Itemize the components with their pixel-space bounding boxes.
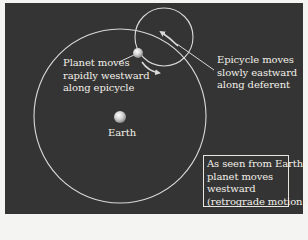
eastward-arrow-icon: [161, 32, 178, 46]
planet-motion-label: Planet moves rapidly westward along epic…: [63, 57, 150, 95]
epicycle-motion-label: Epicycle moves slowly eastward along def…: [217, 54, 297, 92]
earth-label: Earth: [108, 127, 136, 140]
note-line: As seen from Earth,: [207, 158, 288, 171]
note-line: planet moves: [207, 171, 288, 184]
earth-icon: [114, 111, 126, 123]
planet-label-line: rapidly westward: [63, 70, 150, 83]
note-line: westward: [207, 183, 288, 196]
retrograde-note-box: As seen from Earth, planet moves westwar…: [203, 155, 289, 207]
epicycle-label-line: Epicycle moves: [217, 54, 297, 67]
note-line: (retrograde motion): [207, 196, 288, 209]
retrograde-note-text: As seen from Earth, planet moves westwar…: [207, 158, 288, 208]
planet-label-line: along epicycle: [63, 82, 150, 95]
planet-label-line: Planet moves: [63, 57, 150, 70]
epicycle-label-line: along deferent: [217, 79, 297, 92]
epicycle-label-line: slowly eastward: [217, 67, 297, 80]
